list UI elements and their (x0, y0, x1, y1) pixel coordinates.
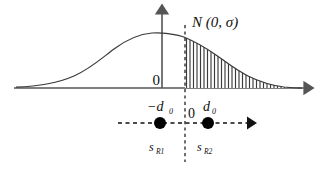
neg-threshold-sub: 0 (169, 107, 173, 116)
pos-threshold-main: d (203, 99, 211, 114)
distribution-label: N (0, σ) (191, 14, 238, 31)
constellation-point-right (202, 117, 214, 129)
symbol-label-right: s R2 (197, 140, 213, 156)
constellation-point-left (154, 117, 166, 129)
shaded-tail-region (185, 30, 305, 89)
pos-threshold-sub: 0 (212, 107, 216, 116)
symbol-label-left: s R1 (149, 140, 164, 156)
origin-label-lower: 0 (188, 106, 195, 121)
neg-threshold-label: −d 0 (147, 99, 173, 116)
origin-label-upper: 0 (153, 72, 161, 88)
pos-threshold-label: d 0 (203, 99, 216, 116)
symbol-left-main: s (149, 140, 154, 154)
figure-canvas: N (0, σ) 0 0 −d 0 d 0 s R1 s R2 (0, 0, 326, 171)
symbol-right-main: s (197, 140, 202, 154)
symbol-left-sub: R1 (155, 147, 164, 156)
symbol-right-sub: R2 (203, 147, 213, 156)
neg-threshold-main: −d (147, 99, 164, 114)
normal-distribution-figure: N (0, σ) 0 0 −d 0 d 0 s R1 s R2 (0, 0, 326, 171)
